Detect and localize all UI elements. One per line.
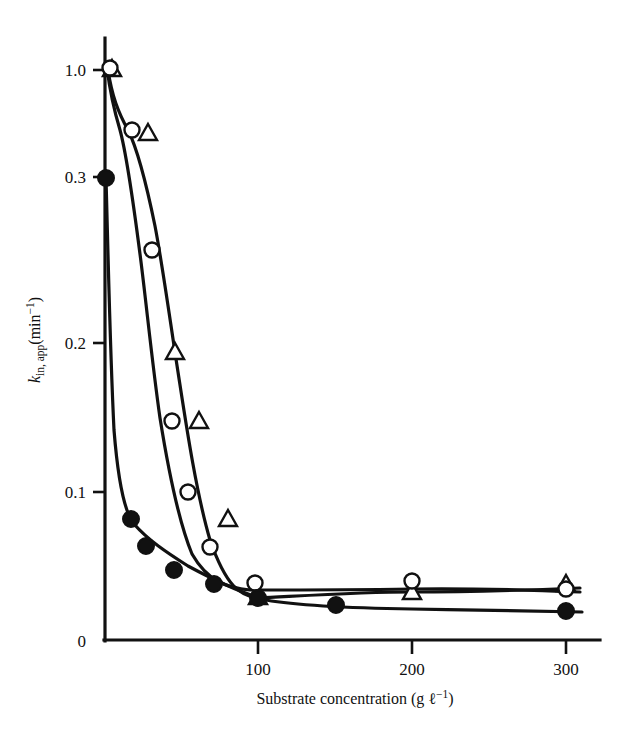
- marker-open-circle: [181, 485, 196, 500]
- y-tick-label-1.0: 1.0: [65, 61, 86, 80]
- marker-open-triangle: [219, 510, 237, 526]
- marker-open-circle: [248, 576, 263, 591]
- marker-open-triangle: [190, 412, 208, 428]
- chart-svg: 1.0 0.3 0.2 0.1 0 100 200 300 Substrate …: [0, 0, 620, 741]
- x-axis-title-exponent: −1: [436, 688, 448, 700]
- series-filled-circle: [106, 178, 582, 612]
- x-axis-title-close: ): [448, 690, 453, 708]
- y-axis-title-units: (min: [26, 314, 44, 344]
- markers-filled-circle: [98, 170, 574, 619]
- y-tick-marks: [93, 70, 105, 492]
- marker-open-triangle: [139, 124, 157, 140]
- marker-filled-circle: [250, 590, 266, 606]
- x-tick-label-200: 200: [399, 660, 425, 679]
- curve-filled-circle: [106, 178, 582, 612]
- series-open-circle: [107, 68, 580, 592]
- axes-group: [104, 38, 600, 641]
- marker-filled-circle: [123, 511, 139, 527]
- y-axis-title-units-exponent: −1: [24, 302, 36, 314]
- marker-filled-circle: [166, 562, 182, 578]
- x-tick-label-100: 100: [245, 660, 271, 679]
- marker-filled-circle: [138, 538, 154, 554]
- x-tick-labels: 100 200 300: [245, 660, 579, 679]
- marker-open-circle: [203, 540, 218, 555]
- y-axis-title-units-close: ): [26, 297, 44, 302]
- x-tick-label-300: 300: [553, 660, 579, 679]
- marker-filled-circle: [558, 603, 574, 619]
- y-tick-label-0: 0: [78, 632, 87, 651]
- marker-filled-circle: [206, 576, 222, 592]
- x-axis-title: Substrate concentration (g ℓ−1): [256, 688, 453, 708]
- y-axis-title-subscript: in, app: [34, 344, 47, 376]
- x-axis-title-main: Substrate concentration (g: [256, 690, 428, 708]
- marker-filled-circle: [98, 170, 114, 186]
- figure-container: 1.0 0.3 0.2 0.1 0 100 200 300 Substrate …: [0, 0, 620, 741]
- marker-open-circle: [405, 574, 420, 589]
- marker-open-circle: [125, 123, 140, 138]
- y-tick-label-0.2: 0.2: [65, 334, 86, 353]
- y-axis-title: kin, app(min−1): [24, 297, 47, 383]
- markers-open-triangle: [103, 60, 575, 604]
- marker-filled-circle: [328, 597, 344, 613]
- x-tick-marks: [258, 640, 566, 654]
- curve-open-circle: [107, 68, 580, 592]
- y-tick-label-0.1: 0.1: [65, 483, 86, 502]
- svg-text:Substrate concentration (g ℓ−1: Substrate concentration (g ℓ−1): [256, 688, 453, 708]
- y-tick-label-0.3: 0.3: [65, 168, 86, 187]
- marker-open-circle: [145, 243, 160, 258]
- markers-open-circle: [103, 61, 574, 597]
- marker-open-circle: [559, 582, 574, 597]
- marker-open-circle: [165, 414, 180, 429]
- svg-text:kin, app(min−1): kin, app(min−1): [24, 297, 47, 383]
- y-tick-labels: 1.0 0.3 0.2 0.1 0: [65, 61, 86, 651]
- marker-open-triangle: [166, 343, 184, 359]
- marker-open-circle: [103, 61, 118, 76]
